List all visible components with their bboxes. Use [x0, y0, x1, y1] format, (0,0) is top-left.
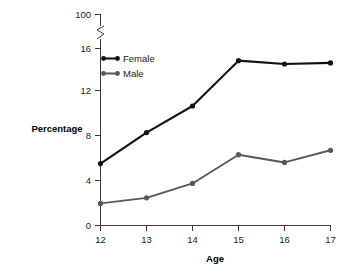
- legend-item-male[interactable]: Male: [101, 68, 143, 79]
- chart-container: 100 16 12 8 4 0 12 13 14 15 16 17 Percen…: [0, 0, 337, 273]
- y-tick-label-4: 4: [86, 175, 91, 186]
- x-tick-label-12: 12: [95, 234, 106, 245]
- series-male: [98, 148, 333, 206]
- data-point-female-age-16: [282, 61, 287, 66]
- x-tick-marks: [101, 226, 331, 232]
- y-tick-label-100: 100: [75, 9, 91, 20]
- legend-swatch-male-marker-right: [115, 71, 120, 76]
- data-point-female-age-12: [98, 161, 103, 166]
- x-axis-title: Age: [206, 253, 224, 264]
- line-chart: 100 16 12 8 4 0 12 13 14 15 16 17 Percen…: [0, 0, 337, 273]
- legend-label-male: Male: [123, 68, 144, 79]
- legend-swatch-female-marker-right: [115, 56, 120, 61]
- series-male-line: [101, 150, 331, 203]
- data-point-female-age-17: [328, 60, 333, 65]
- legend-swatch-female-marker-left: [101, 56, 106, 61]
- y-tick-labels: 100 16 12 8 4 0: [75, 9, 91, 231]
- data-point-male-age-13: [144, 195, 149, 200]
- data-point-male-age-16: [282, 160, 287, 165]
- data-point-male-age-14: [190, 181, 195, 186]
- y-axis-title: Percentage: [31, 123, 82, 134]
- legend-label-female: Female: [123, 53, 155, 64]
- data-point-female-age-13: [144, 130, 149, 135]
- legend: Female Male: [101, 53, 155, 79]
- series-male-points: [98, 148, 333, 206]
- data-point-female-age-14: [190, 103, 195, 108]
- x-tick-label-17: 17: [325, 234, 336, 245]
- data-point-male-age-17: [328, 148, 333, 153]
- y-tick-label-8: 8: [86, 130, 91, 141]
- y-tick-label-0: 0: [86, 220, 91, 231]
- x-tick-label-13: 13: [141, 234, 152, 245]
- legend-swatch-male-marker-left: [101, 71, 106, 76]
- y-axis-break-icon: [97, 26, 105, 39]
- x-tick-label-15: 15: [233, 234, 244, 245]
- x-tick-label-16: 16: [279, 234, 290, 245]
- data-point-male-age-12: [98, 201, 103, 206]
- y-tick-label-12: 12: [80, 85, 91, 96]
- x-tick-label-14: 14: [187, 234, 198, 245]
- legend-item-female[interactable]: Female: [101, 53, 155, 64]
- data-point-male-age-15: [236, 152, 241, 157]
- y-tick-label-16: 16: [80, 43, 91, 54]
- y-tick-marks: [95, 15, 101, 226]
- data-point-female-age-15: [236, 58, 241, 63]
- x-tick-labels: 12 13 14 15 16 17: [95, 234, 336, 245]
